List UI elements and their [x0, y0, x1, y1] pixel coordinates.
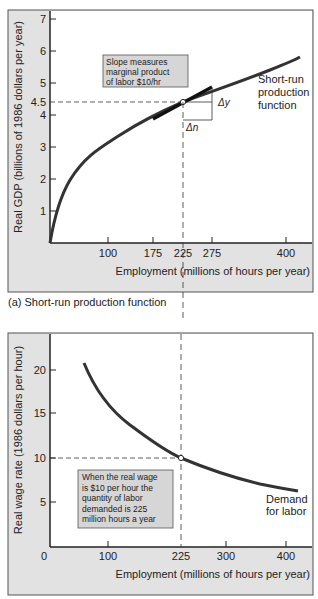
labor-demand-label: Demand for labor — [266, 493, 308, 517]
bottom-y-axis-label: Real wage rate (1986 dollars per hour) — [12, 346, 24, 534]
top-annotation-text: Slope measures marginal product of labor… — [106, 57, 170, 87]
bottom-x-axis-label: Employment (millions of hours per year) — [116, 568, 310, 580]
svg-text:million hours a year: million hours a year — [82, 514, 156, 524]
ytick-label: 5 — [40, 496, 46, 508]
top-y-axis-label: Real GDP (billions of 1986 dollars per y… — [12, 21, 24, 233]
top-chart: 7 6 5 4.5 4 3 2 1 100 175 225 275 400 Em… — [8, 10, 313, 292]
ytick-label: 4.5 — [31, 96, 46, 108]
svg-text:quantity of labor: quantity of labor — [82, 493, 143, 503]
delta-y-label: Δy — [217, 97, 231, 108]
svg-text:demanded is 225: demanded is 225 — [82, 504, 147, 514]
svg-text:Short-run: Short-run — [258, 73, 304, 85]
svg-text:Demand: Demand — [266, 493, 308, 505]
ytick-label: 15 — [34, 407, 46, 419]
ytick-label: 10 — [34, 452, 46, 464]
bottom-point-marker — [178, 455, 183, 460]
xtick-label: 0 — [41, 550, 47, 562]
svg-text:When the real wage: When the real wage — [82, 472, 158, 482]
ytick-label: 2 — [40, 173, 46, 185]
xtick-label: 400 — [277, 550, 295, 562]
xtick-label: 400 — [277, 247, 295, 259]
svg-text:of labor $10/hr: of labor $10/hr — [106, 77, 161, 87]
svg-text:for labor: for labor — [266, 505, 307, 517]
figure: 7 6 5 4.5 4 3 2 1 100 175 225 275 400 Em… — [0, 0, 318, 599]
xtick-label: 175 — [144, 247, 162, 259]
ytick-label: 7 — [40, 13, 46, 25]
delta-n-label: Δn — [185, 122, 199, 133]
svg-text:marginal product: marginal product — [106, 67, 170, 77]
top-x-axis-label: Employment (millions of hours per year) — [116, 265, 310, 277]
ytick-label: 5 — [40, 77, 46, 89]
svg-text:Slope measures: Slope measures — [106, 57, 167, 67]
xtick-label: 100 — [99, 550, 117, 562]
top-plot-area — [50, 11, 312, 243]
xtick-label: 275 — [203, 247, 221, 259]
ytick-label: 6 — [40, 45, 46, 57]
xtick-label: 225 — [172, 550, 190, 562]
svg-text:function: function — [258, 99, 297, 111]
ytick-label: 4 — [40, 109, 46, 121]
svg-text:production: production — [258, 86, 309, 98]
xtick-label: 100 — [99, 247, 117, 259]
svg-text:is $10 per hour the: is $10 per hour the — [82, 483, 153, 493]
panel-caption: (a) Short-run production function — [8, 296, 166, 308]
ytick-label: 1 — [40, 205, 46, 217]
xtick-label: 300 — [217, 550, 235, 562]
ytick-label: 3 — [40, 141, 46, 153]
bottom-chart: 20 15 10 5 0 100 225 300 400 Employment … — [8, 333, 313, 595]
ytick-label: 20 — [34, 364, 46, 376]
